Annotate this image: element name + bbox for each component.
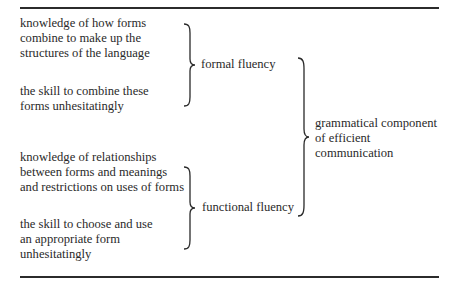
top-rule: [20, 7, 439, 9]
grammatical-brace-icon: [297, 57, 311, 217]
functional-fluency-label: functional fluency: [202, 200, 294, 215]
text-line: the skill to combine these: [20, 84, 149, 99]
text-line: knowledge of how forms: [20, 16, 150, 31]
functional-brace-icon: [183, 166, 197, 250]
text-line: combine to make up the: [20, 31, 150, 46]
text-line: between forms and meanings: [20, 165, 184, 180]
text-line: and restrictions on uses of forms: [20, 180, 184, 195]
text-line: an appropriate form: [20, 232, 153, 247]
formal-fluency-label: formal fluency: [201, 57, 275, 72]
text-line: knowledge of relationships: [20, 150, 184, 165]
text-line: communication: [315, 146, 437, 161]
formal-brace-icon: [183, 23, 197, 107]
formal-knowledge-text: knowledge of how forms combine to make u…: [20, 16, 150, 61]
text-line: forms unhesitatingly: [20, 99, 149, 114]
text-line: unhesitatingly: [20, 247, 153, 262]
functional-skill-text: the skill to choose and use an appropria…: [20, 217, 153, 262]
text-line: of efficient: [315, 131, 437, 146]
functional-knowledge-text: knowledge of relationships between forms…: [20, 150, 184, 195]
formal-skill-text: the skill to combine these forms unhesit…: [20, 84, 149, 114]
text-line: the skill to choose and use: [20, 217, 153, 232]
grammatical-component-text: grammatical component of efficient commu…: [315, 116, 437, 161]
text-line: structures of the language: [20, 46, 150, 61]
text-line: grammatical component: [315, 116, 437, 131]
bottom-rule: [20, 276, 439, 278]
